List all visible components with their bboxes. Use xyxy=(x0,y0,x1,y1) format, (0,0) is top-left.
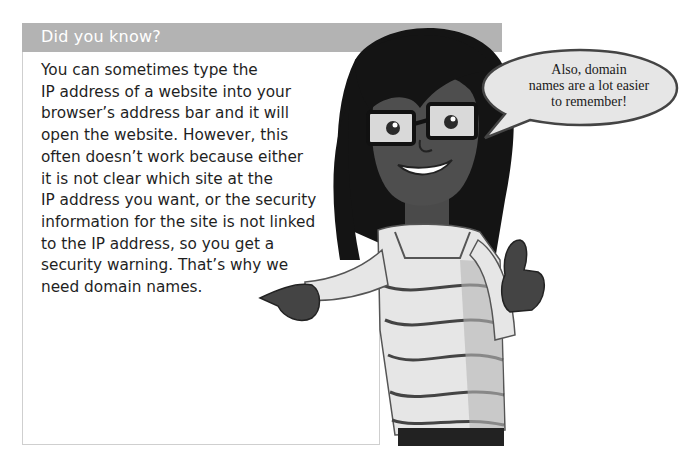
bubble-line: names are a lot easier xyxy=(500,78,678,94)
box-title: Did you know? xyxy=(41,27,161,46)
speech-bubble-text: Also, domain names are a lot easier to r… xyxy=(500,62,678,110)
bubble-line: Also, domain xyxy=(500,62,678,78)
bubble-line: to remember! xyxy=(500,94,678,110)
